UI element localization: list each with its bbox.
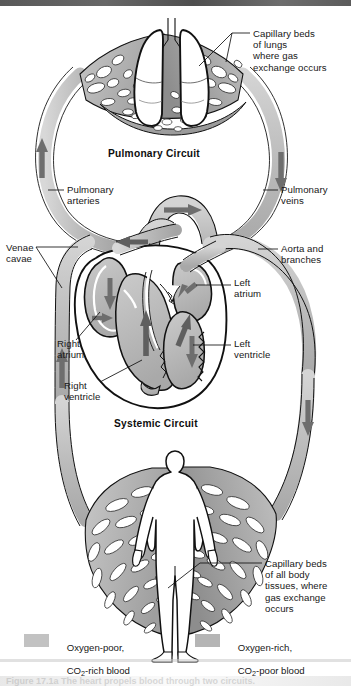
label-right-atrium: Right atrium [57, 338, 84, 360]
legend-oxygen-poor-line2-post: -rich blood [85, 665, 130, 676]
label-venae-cavae: Venae cavae [6, 242, 34, 264]
legend-swatch-oxygen-poor [24, 634, 49, 647]
circuit-title-systemic: Systemic Circuit [114, 418, 198, 429]
legend-swatch-oxygen-rich [195, 634, 220, 647]
label-pulmonary-veins: Pulmonary veins [281, 184, 328, 206]
circuit-title-pulmonary: Pulmonary Circuit [108, 148, 200, 159]
legend-oxygen-rich-line1: Oxygen-rich, [238, 642, 292, 653]
circulatory-system-figure: Pulmonary Circuit Systemic Circuit Capil… [0, 0, 351, 688]
label-left-atrium: Left atrium [234, 277, 261, 299]
heart [55, 196, 315, 408]
legend-oxygen-poor-line2-pre: CO [67, 665, 81, 676]
legend-oxygen-poor-line1: Oxygen-poor, [67, 642, 125, 653]
legend-oxygen-rich-line2-pre: CO [238, 665, 252, 676]
figure-rule [0, 659, 351, 662]
label-capillary-beds-lungs: Capillary beds of lungs where gas exchan… [253, 28, 327, 73]
label-capillary-beds-body: Capillary beds of all body tissues, wher… [265, 558, 327, 614]
legend-oxygen-rich-line2-post: -poor blood [256, 665, 305, 676]
scan-edge-band-bottom [0, 676, 351, 686]
label-pulmonary-arteries: Pulmonary arteries [67, 184, 114, 206]
label-right-ventricle: Right ventricle [64, 380, 100, 402]
label-aorta-and-branches: Aorta and branches [281, 243, 323, 265]
label-left-ventricle: Left ventricle [234, 338, 270, 360]
